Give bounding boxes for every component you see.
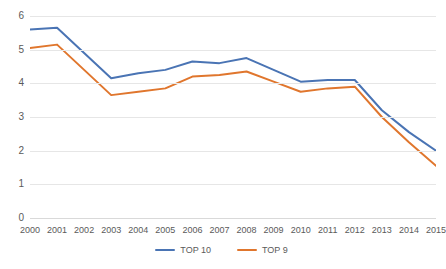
x-tick-label-2015: 2015 — [426, 224, 446, 236]
series-line-top-9 — [30, 45, 436, 166]
x-tick-label-2010: 2010 — [291, 224, 311, 236]
legend-swatch-icon — [237, 249, 257, 252]
x-tick-label-2012: 2012 — [345, 224, 365, 236]
gridline-0 — [30, 218, 436, 219]
y-tick-label-0: 0 — [0, 213, 24, 223]
x-tick-label-2002: 2002 — [74, 224, 94, 236]
y-tick-label-6: 6 — [0, 11, 24, 21]
y-tick-label-2: 2 — [0, 146, 24, 156]
x-tick-label-2014: 2014 — [399, 224, 419, 236]
x-tick-label-2007: 2007 — [209, 224, 229, 236]
gridline-4 — [30, 83, 436, 84]
y-tick-label-5: 5 — [0, 45, 24, 55]
x-axis-tick-labels: 2000200120022003200420052006200720082009… — [30, 224, 436, 238]
chart-legend: TOP 10TOP 9 — [0, 245, 443, 255]
gridline-2 — [30, 151, 436, 152]
gridline-3 — [30, 117, 436, 118]
legend-label: TOP 9 — [262, 245, 288, 255]
legend-label: TOP 10 — [180, 245, 211, 255]
series-line-top-10 — [30, 28, 436, 151]
y-tick-label-4: 4 — [0, 78, 24, 88]
legend-swatch-icon — [155, 249, 175, 252]
x-tick-label-2011: 2011 — [318, 224, 337, 236]
x-tick-label-2001: 2001 — [47, 224, 67, 236]
x-tick-label-2000: 2000 — [20, 224, 40, 236]
plot-area — [30, 16, 436, 218]
x-tick-label-2003: 2003 — [101, 224, 121, 236]
x-tick-label-2013: 2013 — [372, 224, 392, 236]
gridline-1 — [30, 184, 436, 185]
x-tick-label-2008: 2008 — [237, 224, 257, 236]
legend-item-top-10[interactable]: TOP 10 — [155, 245, 211, 255]
y-tick-label-3: 3 — [0, 112, 24, 122]
gridline-6 — [30, 16, 436, 17]
x-tick-label-2004: 2004 — [128, 224, 148, 236]
x-tick-label-2005: 2005 — [155, 224, 175, 236]
legend-item-top-9[interactable]: TOP 9 — [237, 245, 288, 255]
x-tick-label-2006: 2006 — [182, 224, 202, 236]
y-tick-label-1: 1 — [0, 179, 24, 189]
gridline-5 — [30, 50, 436, 51]
x-tick-label-2009: 2009 — [264, 224, 284, 236]
